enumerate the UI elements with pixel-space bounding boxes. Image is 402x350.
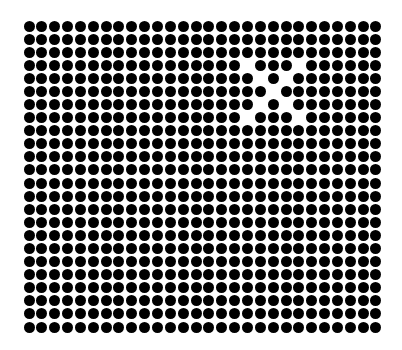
dot bbox=[49, 73, 60, 84]
dot bbox=[126, 47, 137, 58]
dot bbox=[345, 21, 356, 32]
dot bbox=[36, 191, 47, 202]
dot bbox=[62, 86, 73, 97]
dot bbox=[281, 191, 292, 202]
dot bbox=[101, 60, 112, 71]
dot bbox=[88, 138, 99, 149]
dot bbox=[358, 86, 369, 97]
dot bbox=[306, 243, 317, 254]
dot bbox=[165, 322, 176, 333]
dot bbox=[126, 322, 137, 333]
dot bbox=[306, 60, 317, 71]
dot bbox=[203, 112, 214, 123]
dot bbox=[216, 138, 227, 149]
dot bbox=[75, 322, 86, 333]
dot bbox=[178, 191, 189, 202]
dot bbox=[152, 217, 163, 228]
dot bbox=[319, 178, 330, 189]
dot bbox=[88, 112, 99, 123]
dot bbox=[126, 217, 137, 228]
dot bbox=[306, 282, 317, 293]
dot bbox=[216, 34, 227, 45]
dot bbox=[203, 295, 214, 306]
dot bbox=[281, 217, 292, 228]
dot bbox=[319, 34, 330, 45]
dot bbox=[332, 243, 343, 254]
dot bbox=[306, 191, 317, 202]
dot bbox=[101, 125, 112, 136]
dot bbox=[191, 256, 202, 267]
dot bbox=[255, 164, 266, 175]
dot bbox=[152, 178, 163, 189]
dot bbox=[242, 99, 253, 110]
dot bbox=[75, 86, 86, 97]
dot bbox=[139, 125, 150, 136]
dot bbox=[255, 230, 266, 241]
dot bbox=[345, 204, 356, 215]
dot bbox=[178, 322, 189, 333]
dot bbox=[75, 112, 86, 123]
dot bbox=[178, 34, 189, 45]
dot bbox=[229, 256, 240, 267]
dot bbox=[345, 191, 356, 202]
dot bbox=[152, 151, 163, 162]
dot bbox=[36, 86, 47, 97]
dot bbox=[139, 243, 150, 254]
dot bbox=[216, 217, 227, 228]
dot bbox=[126, 191, 137, 202]
dot bbox=[113, 34, 124, 45]
dot bbox=[24, 47, 35, 58]
dot bbox=[306, 178, 317, 189]
dot bbox=[88, 230, 99, 241]
dot bbox=[126, 86, 137, 97]
dot bbox=[24, 164, 35, 175]
dot bbox=[101, 191, 112, 202]
dot bbox=[191, 295, 202, 306]
dot bbox=[113, 269, 124, 280]
dot bbox=[281, 243, 292, 254]
dot bbox=[126, 73, 137, 84]
dot bbox=[24, 204, 35, 215]
dot bbox=[370, 60, 381, 71]
dot bbox=[24, 322, 35, 333]
dot bbox=[293, 164, 304, 175]
dot bbox=[358, 282, 369, 293]
dot bbox=[62, 21, 73, 32]
dot bbox=[126, 112, 137, 123]
dot bbox=[165, 164, 176, 175]
dot bbox=[113, 204, 124, 215]
dot bbox=[358, 138, 369, 149]
dot bbox=[49, 282, 60, 293]
dot bbox=[152, 138, 163, 149]
dot bbox=[306, 230, 317, 241]
dot bbox=[36, 230, 47, 241]
dot bbox=[242, 34, 253, 45]
dot bbox=[24, 243, 35, 254]
dot bbox=[126, 21, 137, 32]
dot bbox=[101, 243, 112, 254]
dot bbox=[101, 217, 112, 228]
dot bbox=[229, 282, 240, 293]
dot bbox=[75, 99, 86, 110]
dot bbox=[242, 230, 253, 241]
dot bbox=[242, 47, 253, 58]
dot bbox=[345, 73, 356, 84]
dot bbox=[255, 243, 266, 254]
dot bbox=[152, 204, 163, 215]
dot bbox=[152, 21, 163, 32]
dot bbox=[191, 73, 202, 84]
dot bbox=[319, 164, 330, 175]
dot bbox=[49, 256, 60, 267]
dot bbox=[36, 322, 47, 333]
dot bbox=[293, 230, 304, 241]
dot bbox=[319, 191, 330, 202]
dot bbox=[370, 178, 381, 189]
dot bbox=[126, 256, 137, 267]
dot bbox=[203, 21, 214, 32]
dot bbox=[36, 125, 47, 136]
dot bbox=[203, 230, 214, 241]
dot bbox=[88, 73, 99, 84]
dot bbox=[75, 191, 86, 202]
dot bbox=[370, 99, 381, 110]
dot bbox=[101, 204, 112, 215]
